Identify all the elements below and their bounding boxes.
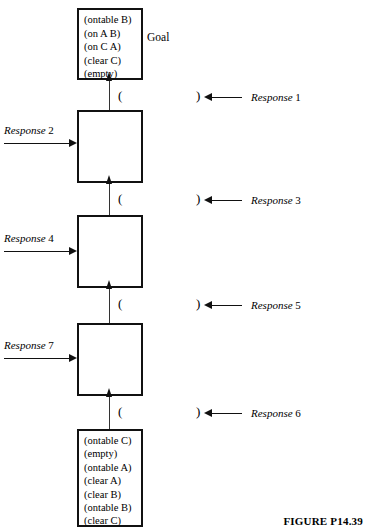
response-label-5: Response 5: [251, 299, 301, 311]
callout-response-7: Response 7: [4, 339, 80, 362]
response-label-7: Response 7: [4, 339, 80, 351]
callout-response-3: Response 3: [204, 192, 301, 208]
initial-predicate-list: (ontable C) (empty) (ontable A) (clear A…: [79, 431, 141, 528]
predicate-item: (empty): [84, 67, 141, 81]
response-word: Response: [4, 339, 46, 351]
response-label-4: Response 4: [4, 232, 80, 244]
paren-open: (: [118, 88, 122, 104]
arrow-shaft: [212, 305, 242, 306]
callout-response-5: Response 5: [204, 297, 301, 313]
predicate-item: (clear C): [84, 54, 141, 68]
arrow-left-icon: [204, 301, 212, 309]
arrow-head: [69, 139, 77, 147]
paren-close: ): [196, 404, 200, 420]
goal-label: Goal: [147, 31, 169, 43]
response-word: Response: [251, 407, 293, 419]
response-word: Response: [4, 124, 46, 136]
response-word: Response: [251, 194, 293, 206]
blank-state-box-3: [77, 323, 143, 396]
blank-state-box-1: [77, 110, 143, 183]
arrow-up-icon: [106, 280, 112, 289]
predicate-item: (empty): [84, 447, 141, 460]
response-number: 3: [295, 194, 301, 206]
goal-state-box: (ontable B) (on A B) (on C A) (clear C) …: [77, 8, 143, 80]
response-number: 4: [48, 232, 54, 244]
arrow-head: [69, 247, 77, 255]
connector-arrow-4: [109, 396, 110, 429]
blank-state-box-2: [77, 215, 143, 288]
paren-open: (: [118, 296, 122, 312]
paren-open: (: [118, 191, 122, 207]
arrow-up-icon: [106, 72, 112, 81]
response-number: 7: [48, 339, 54, 351]
callout-response-4: Response 4: [4, 232, 80, 255]
blank-predicate-list-3: [79, 325, 141, 328]
response-number: 5: [295, 299, 301, 311]
initial-state-box: (ontable C) (empty) (ontable A) (clear A…: [77, 429, 143, 527]
response-number: 2: [48, 124, 54, 136]
predicate-item: (ontable A): [84, 461, 141, 474]
goal-predicate-list: (ontable B) (on A B) (on C A) (clear C) …: [79, 10, 141, 81]
predicate-item: (on C A): [84, 40, 141, 54]
arrow-up-icon: [106, 388, 112, 397]
arrow-shaft: [4, 358, 69, 359]
response-word: Response: [251, 91, 293, 103]
response-word: Response: [251, 299, 293, 311]
response-label-2: Response 2: [4, 124, 80, 136]
arrow-shaft: [212, 200, 242, 201]
paren-close: ): [196, 296, 200, 312]
predicate-item: (ontable B): [84, 501, 141, 514]
arrow-up-icon: [106, 175, 112, 184]
callout-response-2: Response 2: [4, 124, 80, 147]
predicate-item: (clear B): [84, 488, 141, 501]
response-number: 6: [295, 407, 301, 419]
arrow-shaft: [212, 413, 242, 414]
arrow-left-icon: [204, 196, 212, 204]
figure-caption: FIGURE P14.39: [283, 515, 363, 527]
arrow-left-icon: [204, 409, 212, 417]
predicate-item: (on A B): [84, 27, 141, 41]
arrow-shaft: [212, 97, 242, 98]
arrow-left-icon: [204, 93, 212, 101]
arrow-right-icon: [4, 247, 80, 255]
response-word: Response: [4, 232, 46, 244]
callout-response-6: Response 6: [204, 405, 301, 421]
arrow-right-icon: [4, 354, 80, 362]
connector-arrow-2: [109, 183, 110, 215]
arrow-head: [69, 354, 77, 362]
predicate-item: (clear A): [84, 474, 141, 487]
paren-close: ): [196, 191, 200, 207]
connector-arrow-3: [109, 288, 110, 323]
response-label-6: Response 6: [251, 407, 301, 419]
blank-predicate-list-2: [79, 217, 141, 220]
connector-arrow-1: [109, 80, 110, 110]
callout-response-1: Response 1: [204, 89, 301, 105]
paren-open: (: [118, 404, 122, 420]
arrow-shaft: [4, 143, 69, 144]
response-label-3: Response 3: [251, 194, 301, 206]
response-label-1: Response 1: [251, 91, 301, 103]
predicate-item: (ontable B): [84, 13, 141, 27]
response-number: 1: [295, 91, 301, 103]
figure-p14-39: (ontable B) (on A B) (on C A) (clear C) …: [0, 0, 367, 532]
predicate-item: (ontable C): [84, 434, 141, 447]
arrow-right-icon: [4, 139, 80, 147]
predicate-item: (clear C): [84, 514, 141, 527]
blank-predicate-list-1: [79, 112, 141, 115]
paren-close: ): [196, 88, 200, 104]
arrow-shaft: [4, 251, 69, 252]
